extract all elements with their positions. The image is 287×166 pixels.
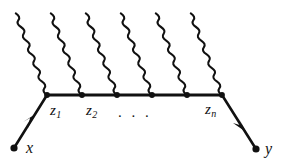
vertex-label-zn-sub: n [211,108,216,119]
endpoint-label-x: x [26,140,33,156]
endpoint-dot-y [252,145,259,152]
photon-line-1 [16,13,47,95]
fermion-outgoing-leg [222,95,256,149]
vertex-label-z2-base: z [86,102,92,118]
feynman-diagram-figure: z1 z2 . . . zn x y [0,0,287,166]
vertex-label-z1: z1 [50,103,61,120]
vertex-label-z1-base: z [50,102,56,118]
vertex-dot-5 [184,92,190,98]
vertex-label-zn: zn [205,102,216,119]
endpoint-label-y: y [265,141,272,157]
ellipsis-label: . . . [118,104,152,121]
photon-line-5 [156,13,187,95]
vertex-label-z2: z2 [86,103,97,120]
photon-line-2 [51,13,82,95]
vertex-dot-4 [149,92,155,98]
diagram-canvas [0,0,287,166]
vertex-label-zn-base: z [205,101,211,117]
photon-lines-group [16,13,222,95]
vertex-label-z2-sub: 2 [92,109,97,120]
photon-line-3 [86,13,117,95]
photon-line-6 [191,13,222,95]
vertex-dot-3 [114,92,120,98]
photon-line-4 [121,13,152,95]
vertex-dot-2 [79,92,85,98]
arrowhead-incoming-icon [23,115,34,128]
vertex-label-z1-sub: 1 [56,109,61,120]
vertex-dot-6 [219,92,225,98]
vertex-dot-1 [44,92,50,98]
endpoint-dot-x [10,144,17,151]
